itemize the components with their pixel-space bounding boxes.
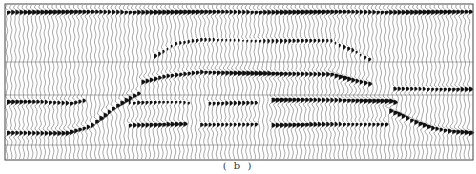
trace-fill — [301, 10, 306, 15]
trace-fill — [381, 123, 384, 127]
trace-fill — [238, 10, 242, 15]
trace-fill — [36, 131, 40, 136]
seismic-trace — [295, 5, 302, 159]
trace-fill — [330, 122, 333, 127]
trace-fill — [339, 122, 342, 127]
seismic-trace — [265, 5, 272, 159]
trace-fill — [7, 11, 11, 15]
trace-fill — [456, 88, 460, 92]
trace-fill — [137, 123, 141, 128]
seismic-trace — [26, 5, 32, 159]
seismic-trace — [274, 5, 281, 159]
trace-fill — [251, 123, 254, 127]
trace-fill — [356, 123, 359, 127]
trace-fill — [343, 123, 346, 127]
seismic-trace — [135, 5, 141, 159]
trace-fill — [171, 74, 174, 78]
trace-fill — [452, 88, 455, 92]
trace-fill — [45, 100, 48, 105]
seismic-trace — [93, 5, 99, 159]
trace-fill — [129, 124, 132, 128]
trace-fill — [423, 10, 428, 15]
trace-fill — [351, 78, 355, 83]
trace-fill — [410, 10, 415, 15]
trace-fill — [175, 10, 180, 15]
trace-fill — [444, 129, 448, 133]
trace-fill — [293, 10, 298, 15]
seismic-trace — [215, 5, 221, 159]
trace-fill — [335, 122, 338, 127]
trace-fill — [234, 101, 237, 106]
trace-fill — [431, 126, 435, 131]
trace-fill — [318, 72, 322, 77]
trace-fill — [242, 10, 246, 15]
trace-fill — [41, 10, 46, 15]
trace-fill — [209, 71, 213, 75]
trace-fill — [162, 10, 167, 15]
trace-fill — [200, 70, 204, 75]
seismic-trace — [408, 5, 415, 159]
trace-fill — [360, 99, 364, 104]
trace-fill — [288, 10, 293, 15]
trace-fill — [414, 10, 419, 15]
trace-fill — [444, 88, 447, 92]
trace-fill — [343, 45, 346, 50]
trace-fill — [204, 71, 208, 75]
trace-fill — [385, 123, 388, 127]
seismic-trace — [106, 5, 111, 159]
seismic-trace — [114, 5, 120, 159]
trace-fill — [339, 98, 343, 103]
seismic-trace — [278, 5, 285, 159]
trace-fill — [330, 98, 334, 103]
trace-fill — [255, 11, 259, 15]
trace-fill — [104, 10, 108, 15]
seismic-trace — [286, 5, 293, 159]
trace-fill — [192, 71, 196, 76]
seismic-trace — [18, 5, 24, 159]
trace-fill — [305, 72, 309, 77]
trace-fill — [419, 10, 424, 15]
trace-fill — [45, 10, 50, 15]
seismic-trace — [81, 5, 87, 159]
seismic-trace — [178, 5, 185, 159]
trace-fill — [112, 10, 116, 15]
trace-fill — [347, 123, 350, 127]
seismic-trace — [421, 5, 428, 159]
seismic-section-plot — [0, 0, 476, 174]
trace-fill — [461, 130, 466, 135]
trace-fill — [246, 10, 250, 15]
trace-fill — [230, 101, 233, 106]
seismic-trace — [47, 5, 54, 159]
trace-fill — [41, 131, 45, 136]
seismic-trace — [152, 5, 158, 159]
trace-fill — [280, 123, 284, 128]
trace-fill — [410, 119, 414, 123]
trace-fill — [24, 131, 28, 136]
seismic-trace — [35, 5, 42, 159]
trace-fill — [133, 123, 137, 128]
seismic-figure: ( b ) — [0, 0, 476, 174]
seismic-trace — [400, 5, 407, 159]
seismic-trace — [127, 5, 133, 159]
seismic-trace — [173, 5, 179, 159]
trace-fill — [234, 71, 239, 76]
seismic-trace — [110, 5, 115, 159]
seismic-trace — [165, 5, 172, 159]
trace-fill — [360, 80, 364, 85]
seismic-trace — [299, 5, 306, 159]
trace-fill — [335, 98, 339, 103]
trace-fill — [423, 123, 428, 128]
trace-fill — [66, 101, 69, 106]
trace-fill — [179, 122, 183, 127]
seismic-trace — [89, 5, 94, 159]
trace-fill — [351, 123, 354, 127]
trace-fill — [322, 72, 326, 77]
trace-fill — [49, 10, 54, 15]
seismic-trace — [51, 5, 58, 159]
seismic-trace — [169, 5, 176, 159]
trace-fill — [351, 48, 354, 53]
trace-fill — [221, 102, 224, 106]
trace-fill — [120, 10, 124, 15]
seismic-trace — [211, 5, 217, 159]
trace-fill — [28, 131, 32, 136]
